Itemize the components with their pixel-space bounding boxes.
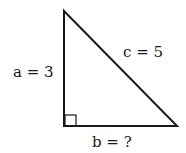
triangle-outline: [64, 11, 177, 126]
side-c-label: c = 5: [123, 43, 163, 61]
side-a-label: a = 3: [13, 63, 54, 81]
right-angle-marker: [65, 115, 76, 126]
right-triangle-diagram: a = 3 c = 5 b = ?: [0, 0, 186, 153]
side-b-label: b = ?: [92, 133, 132, 151]
